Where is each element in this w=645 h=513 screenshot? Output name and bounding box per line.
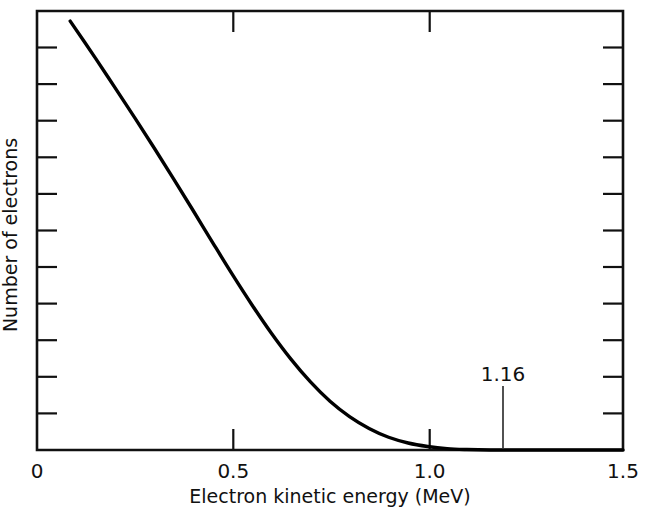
- x-tick-label-1-5: 1.5: [607, 459, 639, 483]
- x-tick-label-1-0: 1.0: [414, 459, 446, 483]
- plot-frame: [37, 11, 623, 450]
- endpoint-annotation-label: 1.16: [481, 362, 526, 386]
- x-tick-label-0: 0: [31, 459, 44, 483]
- y-axis-left-ticks: [37, 48, 57, 414]
- x-tick-label-0-5: 0.5: [217, 459, 249, 483]
- beta-spectrum-chart: 1.16 0 0.5 1.0 1.5 Electron kinetic ener…: [0, 0, 645, 513]
- x-axis-title: Electron kinetic energy (MeV): [189, 485, 470, 507]
- y-axis-title: Number of electrons: [0, 138, 21, 332]
- y-axis-right-ticks: [603, 48, 623, 414]
- x-axis-top-ticks: [233, 11, 429, 32]
- spectrum-curve: [70, 21, 623, 450]
